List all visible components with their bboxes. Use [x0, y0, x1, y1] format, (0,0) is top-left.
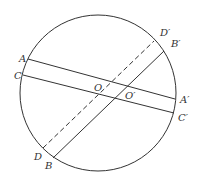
- chord-bb-prime: [53, 51, 164, 158]
- label-d-prime: D′: [159, 27, 171, 38]
- label-d: D: [33, 151, 42, 162]
- label-o-prime: O′: [125, 90, 136, 101]
- chord-aa-prime: [28, 59, 175, 99]
- label-c-prime: C′: [178, 112, 189, 123]
- label-b-prime: B′: [170, 38, 181, 49]
- geometry-diagram: A C D′ B′ O O′ A′ C′ D B: [0, 0, 198, 186]
- chord-cc-prime: [23, 75, 174, 113]
- label-c: C: [14, 70, 22, 81]
- label-a: A: [18, 53, 26, 64]
- label-b: B: [44, 160, 52, 171]
- label-a-prime: A′: [179, 94, 190, 105]
- label-o: O: [94, 82, 102, 93]
